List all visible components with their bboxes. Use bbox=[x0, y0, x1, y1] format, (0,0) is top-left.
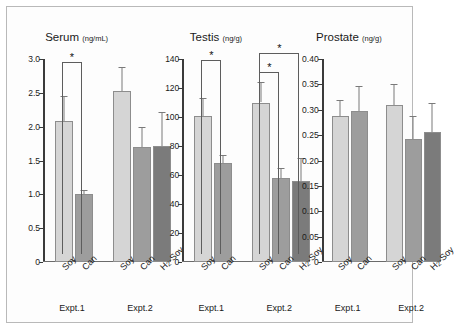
x-labels-testis: SoyCanSoyCanH2-Soy bbox=[182, 265, 279, 305]
panel-testis: Testis (ng/g) 020406080100120140 *** Soy… bbox=[146, 7, 285, 322]
group-label: Expt.1 bbox=[199, 303, 225, 313]
panel-title-text: Serum bbox=[45, 31, 79, 43]
panel-title-unit: (ng/g) bbox=[222, 34, 242, 43]
y-tick-label: 120 bbox=[165, 84, 179, 93]
y-tick-mark bbox=[39, 262, 43, 263]
bar-group-item bbox=[405, 59, 422, 262]
significance-bracket: * bbox=[62, 62, 82, 254]
y-tick-mark bbox=[178, 88, 182, 89]
y-tick-mark bbox=[178, 175, 182, 176]
bar-h2-soy bbox=[424, 132, 441, 262]
y-tick-mark bbox=[178, 262, 182, 263]
error-bar bbox=[142, 127, 143, 147]
plot-area-prostate: 00.050.100.150.200.250.300.350.40 bbox=[322, 59, 406, 262]
bar-soy bbox=[332, 116, 349, 262]
bars-serum bbox=[45, 59, 140, 262]
y-tick-label: 140 bbox=[165, 55, 179, 64]
group-labels-prostate: Expt.1Expt.2 bbox=[322, 303, 406, 319]
y-tick-label: 0.40 bbox=[302, 55, 319, 64]
error-bar bbox=[432, 103, 433, 132]
error-bar-cap bbox=[119, 67, 126, 68]
plot-area-serum: 00.51.01.52.02.53.0 * bbox=[43, 59, 140, 262]
y-tick-mark bbox=[39, 194, 43, 195]
bars-prostate bbox=[324, 59, 406, 262]
group-labels-testis: Expt.1Expt.2 bbox=[182, 303, 279, 319]
error-bar bbox=[359, 86, 360, 111]
bar-can bbox=[405, 139, 422, 262]
y-tick-mark bbox=[178, 59, 182, 60]
y-tick-mark bbox=[39, 59, 43, 60]
x-labels-serum: SoyCanSoyCanH2-Soy bbox=[43, 265, 140, 305]
y-tick-label: 100 bbox=[165, 113, 179, 122]
y-tick-label: 0.30 bbox=[302, 106, 319, 115]
y-tick-mark bbox=[39, 93, 43, 94]
bar-group-item bbox=[351, 59, 368, 262]
y-tick-mark bbox=[318, 59, 322, 60]
bar-group-item bbox=[113, 59, 131, 262]
error-bar bbox=[394, 84, 395, 104]
significance-star: * bbox=[63, 52, 81, 63]
bar-soy bbox=[113, 91, 131, 262]
panel-title-unit: (ng/g) bbox=[362, 34, 382, 43]
y-tick-mark bbox=[178, 146, 182, 147]
y-tick-mark bbox=[318, 84, 322, 85]
error-bar bbox=[340, 100, 341, 116]
y-tick-mark bbox=[318, 135, 322, 136]
y-tick-mark bbox=[39, 127, 43, 128]
bar-can bbox=[351, 111, 368, 262]
error-bar bbox=[413, 116, 414, 139]
panel-title-text: Prostate bbox=[316, 31, 359, 43]
panel-title-serum: Serum (ng/mL) bbox=[7, 31, 146, 43]
y-tick-mark bbox=[318, 262, 322, 263]
panel-title-testis: Testis (ng/g) bbox=[146, 31, 285, 43]
group-label: Expt.1 bbox=[335, 303, 361, 313]
panel-prostate: Prostate (ng/g) 00.050.100.150.200.250.3… bbox=[286, 7, 412, 322]
y-tick-mark bbox=[318, 110, 322, 111]
panel-serum: Serum (ng/mL) 00.51.01.52.02.53.0 * SoyC… bbox=[7, 7, 146, 322]
bar-group-item bbox=[332, 59, 349, 262]
bar-group-item bbox=[386, 59, 403, 262]
error-bar bbox=[223, 155, 224, 164]
panel-title-unit: (ng/mL) bbox=[82, 34, 108, 43]
y-tick-mark bbox=[39, 161, 43, 162]
group-label: Expt.2 bbox=[398, 303, 424, 313]
error-bar bbox=[122, 67, 123, 91]
error-bar-cap bbox=[139, 127, 146, 128]
bar-soy bbox=[386, 105, 403, 262]
y-tick-mark bbox=[178, 204, 182, 205]
error-bar-cap bbox=[337, 100, 344, 101]
group-labels-serum: Expt.1Expt.2 bbox=[43, 303, 140, 319]
significance-star: * bbox=[202, 50, 220, 61]
bar-group-item bbox=[424, 59, 441, 262]
y-tick-label: 0.20 bbox=[302, 156, 319, 165]
y-tick-mark bbox=[318, 237, 322, 238]
group-label: Expt.1 bbox=[59, 303, 85, 313]
y-tick-mark bbox=[39, 228, 43, 229]
y-tick-mark bbox=[178, 233, 182, 234]
y-tick-mark bbox=[318, 211, 322, 212]
figure-frame: Serum (ng/mL) 00.51.01.52.02.53.0 * SoyC… bbox=[6, 6, 413, 323]
panel-title-text: Testis bbox=[190, 31, 219, 43]
y-tick-mark bbox=[318, 161, 322, 162]
error-bar-cap bbox=[356, 86, 363, 87]
significance-bracket: * bbox=[201, 60, 221, 254]
y-tick-label: 0.15 bbox=[302, 182, 319, 191]
error-bar-cap bbox=[429, 103, 436, 104]
x-labels-prostate: SoyCanSoyCanH2-Soy bbox=[322, 265, 406, 305]
y-tick-mark bbox=[178, 117, 182, 118]
y-tick-label: 0.10 bbox=[302, 207, 319, 216]
y-tick-label: 0.05 bbox=[302, 232, 319, 241]
panel-title-prostate: Prostate (ng/g) bbox=[286, 31, 412, 43]
error-bar-cap bbox=[391, 84, 398, 85]
error-bar-cap bbox=[410, 116, 417, 117]
y-tick-mark bbox=[318, 186, 322, 187]
y-tick-label: 0.25 bbox=[302, 131, 319, 140]
panel-row: Serum (ng/mL) 00.51.01.52.02.53.0 * SoyC… bbox=[7, 7, 412, 322]
y-tick-label: 0.35 bbox=[302, 80, 319, 89]
plot-area-testis: 020406080100120140 *** bbox=[182, 59, 279, 262]
